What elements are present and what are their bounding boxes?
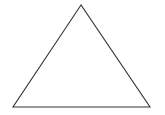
triangle-shape xyxy=(13,5,150,107)
diagram-canvas xyxy=(0,0,165,115)
